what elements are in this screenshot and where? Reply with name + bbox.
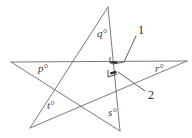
callout-leader-lines xyxy=(113,36,145,91)
geometry-figure: q° p° r° t° s° 1 2 xyxy=(0,0,192,138)
angle-label-s: s° xyxy=(108,107,117,118)
angle-label-t: t° xyxy=(47,100,54,111)
angle-marker-1-fill xyxy=(111,61,117,63)
leader-line-2 xyxy=(118,72,145,91)
leader-line-1 xyxy=(113,36,136,64)
angle-label-q: q° xyxy=(97,28,107,39)
callout-label-1: 1 xyxy=(138,24,144,36)
angle-marker-2-fill xyxy=(110,71,117,75)
angle-label-p: p° xyxy=(38,63,48,74)
callout-label-2: 2 xyxy=(148,89,154,101)
angle-label-r: r° xyxy=(155,63,164,74)
